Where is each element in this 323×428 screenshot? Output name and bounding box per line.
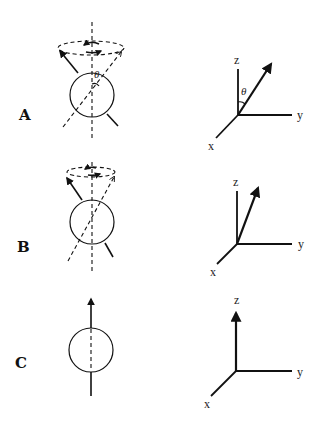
coordinate-axes-a: z y x θ: [208, 53, 303, 153]
precession-diagram: A θ z y: [0, 0, 323, 428]
y-label-c: y: [297, 365, 303, 379]
x-axis-a: [216, 115, 238, 138]
y-label-a: y: [297, 108, 303, 122]
coordinate-axes-b: z y x: [210, 175, 304, 279]
z-label-b: z: [233, 175, 238, 189]
panel-label-a: A: [18, 106, 31, 124]
spinning-top-b: [67, 162, 115, 274]
theta-symbol-axes-a: θ: [241, 85, 247, 97]
angle-arc-axes-a: [238, 102, 245, 104]
top-stem-b: [105, 243, 113, 257]
panel-label-c: C: [15, 354, 27, 372]
panel-a: A θ z y: [18, 22, 303, 153]
x-axis-c: [211, 371, 236, 396]
top-stem-a: [107, 114, 118, 126]
spin-vector-arrow-b: [67, 178, 82, 200]
spin-vector-b: [237, 188, 258, 244]
z-label-c: z: [234, 293, 239, 307]
rotation-arrow-icon: [85, 167, 96, 169]
panel-label-b: B: [17, 238, 30, 256]
x-label-c: x: [204, 397, 210, 411]
panel-b: B z y x: [17, 162, 304, 279]
spinning-top-a: θ: [58, 22, 124, 140]
theta-symbol-a: θ: [94, 68, 100, 80]
coordinate-axes-c: z y x: [204, 293, 303, 411]
x-label-a: x: [208, 139, 214, 153]
z-label-a: z: [234, 53, 239, 67]
rotation-arrow-icon: [88, 174, 100, 175]
x-label-b: x: [210, 265, 216, 279]
rotation-arrow-icon: [86, 51, 101, 53]
spinning-top-c: [69, 299, 113, 396]
x-axis-b: [217, 244, 237, 264]
y-label-b: y: [298, 237, 304, 251]
panel-c: C z y x: [15, 293, 303, 411]
